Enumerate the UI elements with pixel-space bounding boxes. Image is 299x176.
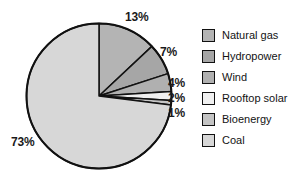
slice-label-rooftop-solar: 2%: [168, 92, 185, 104]
slice-label-coal: 73%: [11, 136, 34, 148]
legend-item-label: Rooftop solar: [222, 92, 287, 105]
legend-item-label: Natural gas: [222, 29, 278, 42]
slice-label-natural-gas: 13%: [125, 11, 148, 23]
legend-item-label: Coal: [222, 134, 245, 147]
chart-legend: Natural gasHydropowerWindRooftop solarBi…: [202, 27, 299, 153]
legend-item-label: Bioenergy: [222, 113, 272, 126]
legend-item-natural-gas[interactable]: Natural gas: [202, 27, 299, 44]
legend-item-wind[interactable]: Wind: [202, 69, 299, 86]
slice-label-wind: 4%: [168, 77, 185, 89]
legend-item-hydropower[interactable]: Hydropower: [202, 48, 299, 65]
legend-swatch-icon: [202, 29, 215, 42]
legend-item-label: Wind: [222, 71, 247, 84]
slice-label-hydropower: 7%: [160, 46, 177, 58]
slice-label-bioenergy: 1%: [168, 107, 185, 119]
legend-item-label: Hydropower: [222, 50, 281, 63]
legend-swatch-icon: [202, 113, 215, 126]
legend-swatch-icon: [202, 92, 215, 105]
legend-swatch-icon: [202, 71, 215, 84]
legend-item-coal[interactable]: Coal: [202, 132, 299, 149]
pie-chart-figure: 13% 7% 4% 2% 1% 73% Natural gasHydropowe…: [0, 0, 299, 176]
legend-swatch-icon: [202, 134, 215, 147]
legend-swatch-icon: [202, 50, 215, 63]
legend-item-rooftop-solar[interactable]: Rooftop solar: [202, 90, 299, 107]
legend-item-bioenergy[interactable]: Bioenergy: [202, 111, 299, 128]
